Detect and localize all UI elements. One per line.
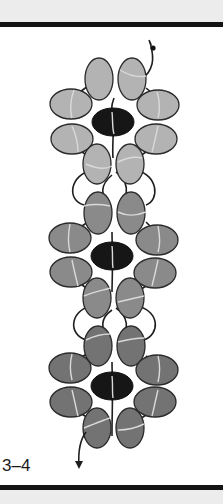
figure-label: 3–4 [2,456,30,476]
flower-middle [49,192,178,318]
bead [118,58,146,100]
bead [85,58,113,100]
bead [116,408,144,448]
bead [136,225,178,255]
flower-bottom [49,326,178,448]
bead [83,408,111,448]
bead [84,192,112,234]
bead [136,355,178,385]
bead [116,144,144,184]
bead [83,278,111,318]
thread-knot-icon [150,45,155,50]
bead [50,257,92,287]
flower-top [50,58,179,184]
bead [116,278,144,318]
bead [135,124,177,154]
beading-diagram: .t { fill: none; stroke: #1e1e1e; stroke… [0,0,223,504]
arrow-down-icon [75,461,83,469]
bead [50,387,92,417]
bottom-band [0,490,223,504]
